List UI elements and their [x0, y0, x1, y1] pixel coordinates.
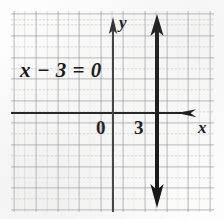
x-axis — [11, 112, 188, 114]
vertical-line-x-equals-3 — [155, 26, 159, 190]
y-axis-label: y — [119, 14, 127, 31]
graph-figure: x − 3 = 0 y x 0 3 — [0, 0, 224, 219]
equation-label: x − 3 = 0 — [20, 60, 102, 81]
y-axis — [112, 26, 114, 212]
x-intercept-label: 3 — [134, 118, 144, 137]
arrow-down-icon — [144, 181, 170, 209]
origin-label: 0 — [96, 118, 106, 137]
x-axis-label: x — [198, 119, 207, 136]
arrow-up-icon — [144, 14, 170, 40]
